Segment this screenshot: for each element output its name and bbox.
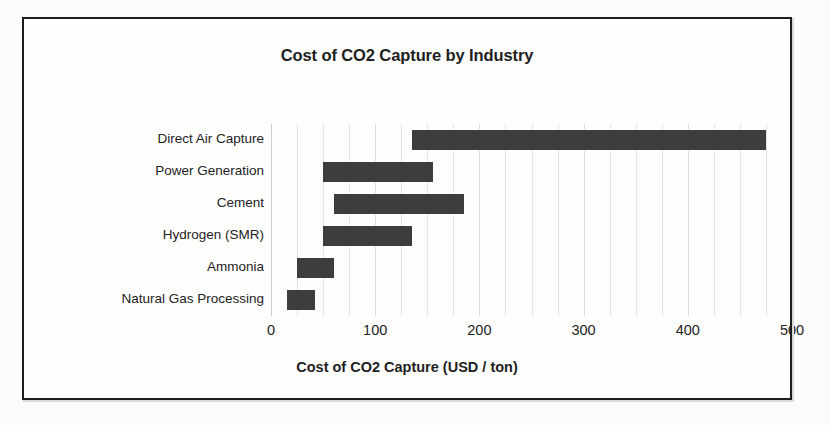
bar-natural-gas-processing[interactable] [287, 290, 315, 310]
x-tick-label-300: 300 [571, 322, 595, 338]
category-label-cement: Cement [64, 195, 264, 210]
category-label-natural-gas-processing: Natural Gas Processing [64, 291, 264, 306]
x-tick-label-100: 100 [363, 322, 387, 338]
bar-row [271, 252, 792, 284]
bar-direct-air-capture[interactable] [412, 130, 766, 150]
x-tick-label-500: 500 [780, 322, 804, 338]
scanned-page-background: Cost of CO2 Capture by Industry Direct A… [0, 0, 830, 425]
category-label-ammonia: Ammonia [64, 259, 264, 274]
x-tick-label-200: 200 [467, 322, 491, 338]
bar-row [271, 124, 792, 156]
x-axis-title: Cost of CO2 Capture (USD / ton) [24, 359, 790, 375]
bar-ammonia[interactable] [297, 258, 333, 278]
category-axis-labels: Direct Air CapturePower GenerationCement… [64, 124, 264, 316]
plot-area [271, 124, 792, 316]
bar-hydrogen-smr[interactable] [323, 226, 412, 246]
chart-title: Cost of CO2 Capture by Industry [24, 46, 790, 65]
bar-row [271, 284, 792, 316]
x-tick-label-400: 400 [676, 322, 700, 338]
chart-frame-border: Cost of CO2 Capture by Industry Direct A… [22, 17, 792, 400]
x-tick-label-0: 0 [267, 322, 275, 338]
category-label-direct-air-capture: Direct Air Capture [64, 131, 264, 146]
category-label-power-generation: Power Generation [64, 163, 264, 178]
bar-row [271, 220, 792, 252]
x-axis-tick-labels: 0100200300400500 [271, 322, 792, 346]
gridline-500 [792, 124, 793, 316]
bar-power-generation[interactable] [323, 162, 432, 182]
bar-cement[interactable] [334, 194, 464, 214]
bar-row [271, 156, 792, 188]
bar-row [271, 188, 792, 220]
category-label-hydrogen-smr: Hydrogen (SMR) [64, 227, 264, 242]
